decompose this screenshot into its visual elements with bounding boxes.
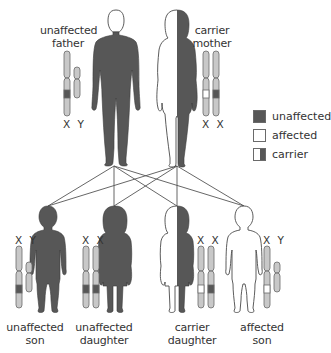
father-label: unaffected father — [40, 24, 96, 50]
legend-label-unaffected: unaffected — [272, 110, 331, 123]
legend-item-affected: affected — [253, 129, 317, 142]
child4-chromosome-label: X Y — [263, 234, 286, 246]
carrier-daughter-chromosomes — [198, 246, 214, 308]
child2-label-line2: daughter — [73, 334, 135, 347]
mother-chromosome-label: X X — [202, 118, 226, 130]
child2-label-line1: unaffected — [73, 321, 135, 334]
legend-label-affected: affected — [272, 129, 317, 142]
legend-item-unaffected: unaffected — [253, 110, 331, 123]
mother-chromosomes — [203, 51, 219, 116]
father-chromosomes — [64, 51, 80, 116]
child4-label-line1: affected — [236, 321, 288, 334]
father-figure — [92, 10, 140, 166]
father-chromosome-label: X Y — [63, 118, 86, 130]
child3-label-line2: daughter — [164, 334, 220, 347]
unaffected-son-chromosomes — [16, 246, 32, 308]
father-label-line1: unaffected — [40, 24, 96, 37]
child1-label-line2: son — [4, 334, 66, 347]
mother-label-line2: mother — [190, 37, 234, 50]
mother-label: carrier mother — [190, 24, 234, 50]
child3-label: carrier daughter — [164, 321, 220, 347]
child4-label-line2: son — [236, 334, 288, 347]
child4-label: affected son — [236, 321, 288, 347]
unaffected-daughter-chromosomes — [83, 246, 99, 308]
affected-swatch-icon — [253, 129, 266, 142]
unaffected-daughter-figure — [98, 206, 132, 313]
legend-label-carrier: carrier — [272, 148, 308, 161]
inheritance-lines — [48, 166, 244, 206]
child1-label: unaffected son — [4, 321, 66, 347]
father-label-line2: father — [40, 37, 96, 50]
child1-label-line1: unaffected — [4, 321, 66, 334]
child1-chromosome-label: X Y — [15, 234, 38, 246]
child2-chromosome-label: X X — [82, 234, 106, 246]
unaffected-son-figure — [30, 206, 67, 313]
legend-item-carrier: carrier — [253, 148, 308, 161]
affected-son-chromosomes — [264, 246, 280, 308]
child2-label: unaffected daughter — [73, 321, 135, 347]
unaffected-swatch-icon — [253, 110, 266, 123]
carrier-swatch-icon — [253, 148, 266, 161]
carrier-daughter-figure — [160, 206, 194, 313]
child3-chromosome-label: X X — [197, 234, 221, 246]
child3-label-line1: carrier — [164, 321, 220, 334]
mother-label-line1: carrier — [190, 24, 234, 37]
affected-son-figure — [226, 206, 263, 313]
